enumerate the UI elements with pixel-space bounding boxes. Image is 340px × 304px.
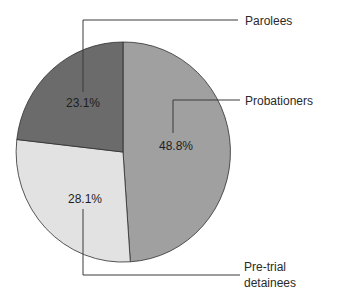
label-pre-trial-line1: Pre-trial <box>244 260 286 274</box>
pct-label-pre-trial: 28.1% <box>68 192 102 206</box>
pct-label-parolees: 23.1% <box>66 96 100 110</box>
label-parolees: Parolees <box>245 14 292 28</box>
label-pre-trial-line2: detainees <box>244 276 296 290</box>
pct-label-probationers: 48.8% <box>159 139 193 153</box>
pie-chart: 23.1% 48.8% 28.1% Parolees Probationers … <box>0 0 340 304</box>
label-probationers: Probationers <box>245 94 313 108</box>
